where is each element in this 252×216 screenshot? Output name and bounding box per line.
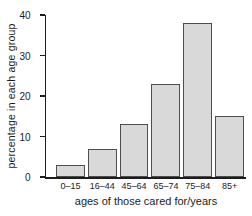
plot-area: 010203040 0–1516–4445–6465–7475–8485+ <box>46 15 246 177</box>
y-tick-mark <box>40 95 45 97</box>
x-axis-title: ages of those cared for/years <box>46 195 246 207</box>
x-tick-label: 85+ <box>222 181 237 191</box>
bar <box>151 84 180 177</box>
x-tick-label: 75–84 <box>185 181 210 191</box>
bar <box>215 116 244 177</box>
bars-container: 0–1516–4445–6465–7475–8485+ <box>46 15 246 177</box>
x-tick-label: 65–74 <box>153 181 178 191</box>
bar <box>56 165 85 177</box>
bar <box>88 149 117 177</box>
y-tick-mark <box>40 176 45 178</box>
y-axis-title: percentage in each age group <box>5 23 17 168</box>
y-tick-label: 30 <box>19 50 30 61</box>
y-tick-label: 10 <box>19 131 30 142</box>
x-axis-line <box>45 177 247 179</box>
y-tick-label: 0 <box>25 172 31 183</box>
x-tick-label: 0–15 <box>60 181 80 191</box>
bar-column: 16–44 <box>88 15 117 177</box>
x-tick-label: 45–64 <box>122 181 147 191</box>
bar-column: 45–64 <box>120 15 149 177</box>
bar <box>183 23 212 177</box>
y-tick-label: 20 <box>19 91 30 102</box>
bar-column: 65–74 <box>151 15 180 177</box>
bar <box>120 124 149 177</box>
y-tick-mark <box>40 55 45 57</box>
bar-column: 85+ <box>215 15 244 177</box>
x-tick-label: 16–44 <box>90 181 115 191</box>
bar-column: 75–84 <box>183 15 212 177</box>
y-tick-mark <box>40 14 45 16</box>
bar-chart-figure: percentage in each age group 010203040 0… <box>0 0 252 216</box>
bar-column: 0–15 <box>56 15 85 177</box>
y-tick-label: 40 <box>19 10 30 21</box>
y-tick-mark <box>40 136 45 138</box>
